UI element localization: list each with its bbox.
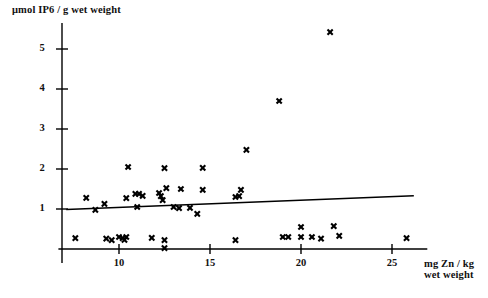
data-point [309,234,314,239]
data-point [73,236,78,241]
data-point [84,195,89,200]
y-tick-label-3: 3 [32,122,52,133]
y-tick-label-2: 2 [32,162,52,173]
data-point [164,186,169,191]
axes-group [58,23,427,263]
data-point [124,196,129,201]
scatter-plot-figure: μmol IP6 / g wet weight mg Zn / kgwet we… [0,0,488,298]
data-point [178,186,183,191]
data-point [162,238,167,243]
y-tick-label-4: 4 [32,82,52,93]
data-point [280,234,285,239]
x-tick-label-10: 10 [109,257,129,268]
data-point [162,166,167,171]
data-point [176,206,181,211]
data-point [298,224,303,229]
data-point [331,224,336,229]
data-point [298,234,303,239]
data-point [126,164,131,169]
x-tick-label-25: 25 [382,257,402,268]
data-point [244,147,249,152]
x-tick-label-15: 15 [200,257,220,268]
plot-canvas [0,0,488,298]
data-point [318,236,323,241]
x-tick-label-20: 20 [291,257,311,268]
data-point [200,165,205,170]
data-point [200,187,205,192]
y-tick-label-5: 5 [32,42,52,53]
data-point [238,187,243,192]
data-point [404,236,409,241]
data-point [337,233,342,238]
data-point [195,211,200,216]
data-point [102,201,107,206]
data-point [286,234,291,239]
data-point [233,238,238,243]
y-tick-label-1: 1 [32,202,52,213]
data-point [187,205,192,210]
ticks-group [56,49,392,254]
data-point [328,30,333,35]
data-point [162,246,167,251]
data-point [109,238,114,243]
data-point [277,98,282,103]
data-points-group [73,30,409,251]
data-point [149,235,154,240]
data-point [104,236,109,241]
